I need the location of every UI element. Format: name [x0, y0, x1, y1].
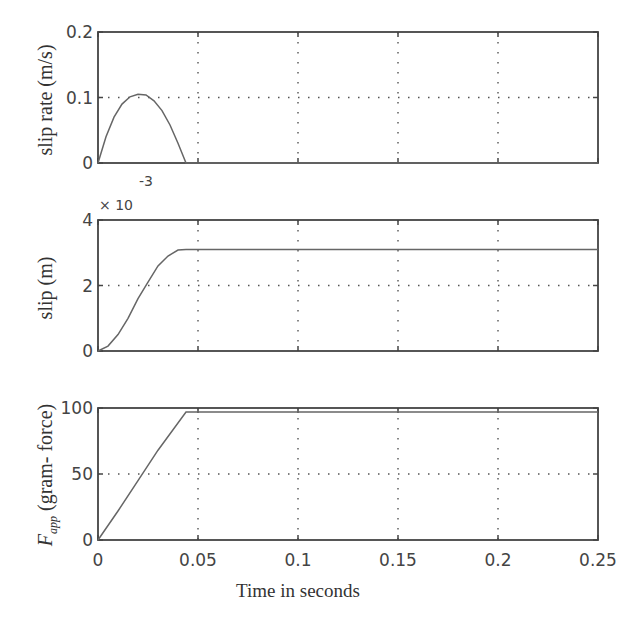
y-tick-label: 2: [82, 276, 93, 296]
exponent-base: × 10: [99, 197, 133, 213]
subplot-1: 00.10.2: [66, 22, 598, 173]
y-axis-label-slip: slip (m): [34, 257, 57, 320]
y-tick-label: 0: [82, 530, 93, 550]
y-tick-label: 100: [61, 398, 93, 418]
y-tick-label: 0.2: [66, 22, 93, 42]
x-tick-label: 0.1: [284, 550, 311, 570]
subplot-3: 050100: [61, 398, 598, 550]
x-tick-label: 0.05: [179, 550, 217, 570]
subplot-2: 024: [82, 210, 598, 361]
x-axis-label: Time in seconds: [236, 580, 360, 601]
y-tick-label: 0.1: [66, 88, 93, 108]
y-tick-label: 0: [82, 341, 93, 361]
exponent-power: -3: [139, 173, 153, 189]
y-tick-label: 50: [71, 464, 93, 484]
x-tick-label: 0.25: [579, 550, 617, 570]
data-series-line: [98, 412, 598, 540]
x-tick-label: 0.2: [484, 550, 511, 570]
y-tick-label: 0: [82, 153, 93, 173]
x-tick-label: 0: [93, 550, 104, 570]
data-series-line: [98, 250, 598, 352]
data-series-line: [98, 94, 598, 163]
y-tick-label: 4: [82, 210, 93, 230]
y-axis-label-force: Fapp (gram- force): [34, 404, 60, 547]
y-axis-label-slip-rate: slip rate (m/s): [34, 44, 57, 155]
x-tick-label: 0.15: [379, 550, 417, 570]
figure: 00.10.2024050100× 10-3slip rate (m/s)sli…: [0, 0, 635, 619]
